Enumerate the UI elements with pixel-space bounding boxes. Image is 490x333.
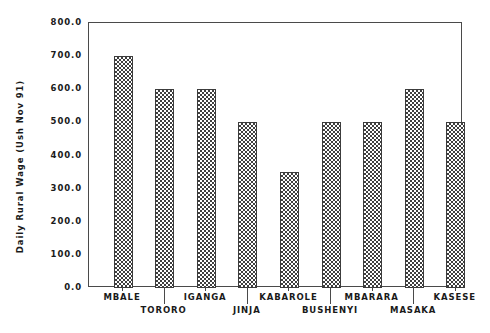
y-tick-label-600: 600.0	[0, 82, 88, 94]
x-label-bushenyi: BUSHENYI	[302, 305, 358, 317]
x-label-kasese: KASESE	[434, 292, 476, 304]
y-tick-label-0: 0.0	[0, 281, 88, 293]
x-tickmark-kasese	[455, 287, 456, 291]
x-tickmark-tororo	[164, 287, 165, 304]
y-tick-text: 300.0	[51, 183, 88, 193]
y-tick-text: 600.0	[51, 83, 88, 93]
y-tick-label-100: 100.0	[0, 248, 88, 260]
x-label-tororo: TORORO	[141, 305, 187, 317]
y-tick-text: 100.0	[51, 249, 88, 259]
bar-kabarole[interactable]	[280, 172, 299, 288]
bar-jinja[interactable]	[238, 122, 257, 288]
y-tick-label-300: 300.0	[0, 182, 88, 194]
bar-masaka[interactable]	[405, 89, 424, 288]
y-tick-text: 200.0	[51, 216, 88, 226]
plot-area	[88, 22, 462, 287]
x-tickmark-mbale	[122, 287, 123, 291]
y-tick-label-400: 400.0	[0, 149, 88, 161]
bar-kasese[interactable]	[446, 122, 465, 288]
y-tick-label-500: 500.0	[0, 115, 88, 127]
x-label-kabarole: KABAROLE	[259, 292, 317, 304]
x-label-mbarara: MBARARA	[345, 292, 399, 304]
bar-tororo[interactable]	[155, 89, 174, 288]
bar-mbarara[interactable]	[363, 122, 382, 288]
x-label-masaka: MASAKA	[390, 305, 436, 317]
y-tick-text: 0.0	[64, 282, 88, 292]
bar-mbale[interactable]	[114, 56, 133, 288]
y-tick-text: 800.0	[51, 17, 88, 27]
x-tickmark-bushenyi	[330, 287, 331, 304]
bar-iganga[interactable]	[197, 89, 216, 288]
x-label-iganga: IGANGA	[184, 292, 227, 304]
bar-bushenyi[interactable]	[322, 122, 341, 288]
x-tickmark-jinja	[247, 287, 248, 304]
y-tick-text: 500.0	[51, 116, 88, 126]
y-tick-label-700: 700.0	[0, 49, 88, 61]
x-label-jinja: JINJA	[233, 305, 261, 317]
y-tick-label-200: 200.0	[0, 215, 88, 227]
x-tickmark-mbarara	[372, 287, 373, 291]
y-axis-title-text: Daily Rural Wage (Ush Nov 91)	[15, 80, 25, 253]
x-tickmark-masaka	[413, 287, 414, 304]
x-label-mbale: MBALE	[103, 292, 140, 304]
y-tick-text: 700.0	[51, 50, 88, 60]
bar-chart: Daily Rural Wage (Ush Nov 91) 0.0100.020…	[0, 0, 490, 333]
y-tick-label-800: 800.0	[0, 16, 88, 28]
y-tick-text: 400.0	[51, 150, 88, 160]
y-axis-title: Daily Rural Wage (Ush Nov 91)	[0, 0, 40, 333]
x-tickmark-kabarole	[288, 287, 289, 291]
x-tickmark-iganga	[205, 287, 206, 291]
